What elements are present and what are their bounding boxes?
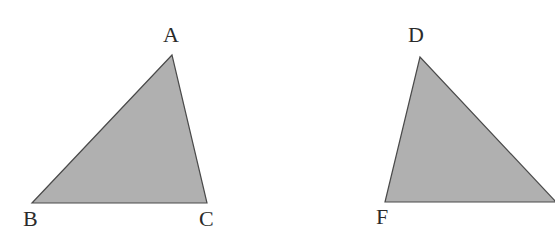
vertex-label-a: A <box>163 24 179 46</box>
diagram-canvas: A B C D F <box>0 0 555 245</box>
vertex-label-b: B <box>23 208 38 230</box>
vertex-label-c: C <box>199 208 214 230</box>
vertex-label-f: F <box>376 206 388 228</box>
vertex-label-d: D <box>408 24 424 46</box>
triangles-svg <box>0 0 555 245</box>
